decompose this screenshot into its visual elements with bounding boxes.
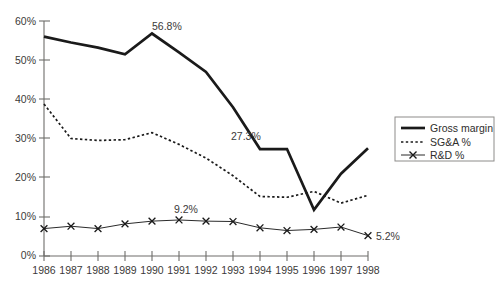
x-tick-label: 1997 bbox=[329, 264, 353, 276]
series-line-sga bbox=[44, 104, 368, 203]
y-tick-label: 20% bbox=[15, 171, 36, 183]
series-line-gross-margin bbox=[44, 34, 368, 210]
annotation-rd-1998: 5.2% bbox=[376, 230, 400, 242]
y-tick-label: 40% bbox=[15, 93, 36, 105]
y-tick-label: 50% bbox=[15, 54, 36, 66]
y-tick-label: 0% bbox=[21, 249, 36, 261]
x-tick-label: 1986 bbox=[32, 264, 56, 276]
legend-label-gross-margin: Gross margin bbox=[430, 122, 493, 134]
y-tick-label: 30% bbox=[15, 132, 36, 144]
data-annotations: 56.8% 27.3% 9.2% 5.2% bbox=[152, 20, 400, 242]
annotation-gross-1994: 27.3% bbox=[231, 130, 261, 142]
annotation-gross-1990: 56.8% bbox=[152, 20, 182, 32]
annotation-rd-1991: 9.2% bbox=[174, 203, 198, 215]
chart-legend: Gross margin SG&A % R&D % bbox=[395, 117, 494, 161]
y-axis-tick-labels: 60% 50% 40% 30% 20% 10% 0% bbox=[15, 15, 36, 261]
line-chart: 60% 50% 40% 30% 20% 10% 0% bbox=[0, 0, 498, 291]
series-line-rd bbox=[44, 220, 368, 236]
x-tick-label: 1994 bbox=[248, 264, 272, 276]
x-tick-label: 1988 bbox=[86, 264, 110, 276]
y-tick-label: 10% bbox=[15, 210, 36, 222]
rd-data-point-marker bbox=[365, 232, 372, 239]
x-tick-label: 1992 bbox=[194, 264, 218, 276]
x-tick-label: 1990 bbox=[140, 264, 164, 276]
chart-canvas: 60% 50% 40% 30% 20% 10% 0% bbox=[0, 0, 498, 291]
x-axis-tick-labels: 1986 1987 1988 1989 1990 1991 1992 1993 … bbox=[32, 264, 380, 276]
x-tick-label: 1987 bbox=[59, 264, 83, 276]
x-tick-label: 1993 bbox=[221, 264, 245, 276]
x-tick-label: 1989 bbox=[113, 264, 137, 276]
x-tick-label: 1995 bbox=[275, 264, 299, 276]
y-tick-label: 60% bbox=[15, 15, 36, 27]
x-tick-label: 1998 bbox=[356, 264, 380, 276]
x-tick-label: 1996 bbox=[302, 264, 326, 276]
legend-label-rd: R&D % bbox=[430, 149, 464, 161]
legend-label-sga: SG&A % bbox=[430, 136, 471, 148]
x-tick-label: 1991 bbox=[167, 264, 191, 276]
